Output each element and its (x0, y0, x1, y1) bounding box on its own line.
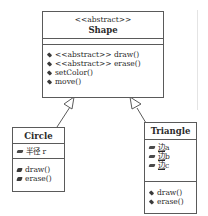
method-row[interactable]: <<abstract>> erase() (47, 59, 163, 68)
method-row[interactable]: setColor() (47, 68, 163, 77)
class-shape[interactable]: <<abstract>> Shape <<abstract>> draw() <… (42, 11, 164, 98)
attribute-row[interactable]: 边a (149, 143, 196, 152)
method-row[interactable]: move() (47, 77, 163, 86)
public-method-icon (149, 199, 154, 204)
public-method-icon (47, 52, 52, 57)
attribute-row[interactable]: 边b (149, 152, 196, 161)
method-label: move() (55, 77, 81, 86)
attribute-label: 半径 r (26, 147, 46, 156)
generalization-arrow-triangle (130, 97, 146, 123)
attribute-label-prefix: 边 (158, 152, 165, 161)
attributes-compartment: 半径 r (13, 143, 64, 158)
method-row[interactable]: erase() (17, 174, 64, 183)
method-label: <<abstract>> erase() (55, 59, 141, 68)
public-method-icon (149, 190, 154, 195)
private-attribute-icon (148, 155, 155, 158)
methods-compartment: draw() erase() (145, 181, 196, 206)
method-label: draw() (25, 165, 50, 174)
private-attribute-icon (148, 164, 155, 167)
attribute-label-suffix: a (165, 143, 169, 152)
attribute-row[interactable]: 边c (149, 161, 196, 170)
hollow-triangle-arrowhead-icon (130, 97, 141, 109)
protected-method-icon (16, 168, 22, 172)
method-label: draw() (157, 188, 182, 197)
method-label: <<abstract>> draw() (55, 50, 139, 59)
class-circle[interactable]: Circle 半径 r draw() erase() (12, 127, 65, 192)
method-row[interactable]: draw() (149, 188, 196, 197)
class-name-compartment: <<abstract>> Shape (43, 12, 163, 38)
private-attribute-icon (16, 150, 23, 153)
stereotype-label: <<abstract>> (43, 15, 163, 25)
attribute-label-prefix: 边 (158, 161, 165, 170)
class-name-compartment: Triangle (145, 123, 196, 139)
attribute-row[interactable]: 半径 r (17, 147, 64, 156)
public-method-icon (47, 79, 52, 84)
method-row[interactable]: erase() (149, 197, 196, 206)
class-name: Triangle (145, 126, 196, 136)
method-label: erase() (25, 174, 52, 183)
attribute-label-suffix: b (165, 152, 170, 161)
hollow-triangle-arrowhead-icon (64, 97, 74, 109)
attributes-compartment: 边a 边b 边c (145, 139, 196, 181)
class-name: Circle (13, 131, 64, 141)
protected-method-icon (16, 177, 22, 181)
methods-compartment: draw() erase() (13, 158, 64, 183)
method-label: erase() (157, 197, 184, 206)
attribute-label-suffix: c (165, 161, 169, 170)
attribute-label-prefix: 边 (158, 143, 165, 152)
public-method-icon (47, 70, 52, 75)
method-row[interactable]: <<abstract>> draw() (47, 50, 163, 59)
method-label: setColor() (55, 68, 93, 77)
public-method-icon (47, 61, 52, 66)
methods-compartment: <<abstract>> draw() <<abstract>> erase()… (43, 44, 163, 86)
class-name-compartment: Circle (13, 128, 64, 143)
private-attribute-icon (148, 146, 155, 149)
class-name: Shape (43, 25, 163, 35)
method-row[interactable]: draw() (17, 165, 64, 174)
class-triangle[interactable]: Triangle 边a 边b 边c draw() erase() (144, 122, 197, 214)
generalization-arrow-circle (57, 97, 74, 127)
